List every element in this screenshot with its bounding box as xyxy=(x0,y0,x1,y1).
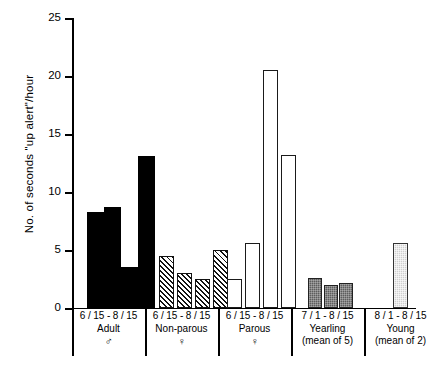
group-range-adult: 6 / 15 - 8 / 15 xyxy=(72,310,145,323)
bar-non-parous-3 xyxy=(195,279,210,308)
bar-non-parous-1 xyxy=(159,256,174,308)
bar-adult-4 xyxy=(138,156,155,308)
group-name-parous: Parous xyxy=(218,323,291,336)
group-symbol-female-parous: ♀ xyxy=(218,335,291,348)
y-tick-5 xyxy=(65,250,72,252)
y-tick-20 xyxy=(65,76,72,78)
group-name-young: Young xyxy=(364,323,431,336)
y-tick-10 xyxy=(65,192,72,194)
plot-area xyxy=(73,18,416,308)
bar-parous-1 xyxy=(227,279,242,308)
y-tick-label-25: 25 xyxy=(31,11,61,23)
bar-adult-3 xyxy=(121,267,138,308)
group-range-parous: 6 / 15 - 8 / 15 xyxy=(218,310,291,323)
y-tick-label-10: 10 xyxy=(31,185,61,197)
y-tick-15 xyxy=(65,134,72,136)
group-note-young: (mean of 2) xyxy=(364,335,431,348)
group-range-nonparous: 6 / 15 - 8 / 15 xyxy=(145,310,218,323)
bar-adult-1 xyxy=(87,212,104,308)
group-label-parous: 6 / 15 - 8 / 15 Parous ♀ xyxy=(218,310,291,348)
group-range-young: 8 / 1 - 8 / 15 xyxy=(364,310,431,323)
bar-adult-2 xyxy=(104,207,121,308)
bar-non-parous-2 xyxy=(177,273,192,308)
y-tick-0 xyxy=(65,308,72,310)
bar-young-1 xyxy=(393,243,408,308)
y-axis-label: No. of seconds "up alert"/hour xyxy=(23,29,35,279)
group-symbol-female-nonparous: ♀ xyxy=(145,335,218,348)
group-range-yearling: 7 / 1 - 8 / 15 xyxy=(291,310,364,323)
group-label-young: 8 / 1 - 8 / 15 Young (mean of 2) xyxy=(364,310,431,348)
group-name-nonparous: Non-parous xyxy=(145,323,218,336)
group-name-adult: Adult xyxy=(72,323,145,336)
bar-parous-4 xyxy=(281,155,296,308)
group-label-yearling: 7 / 1 - 8 / 15 Yearling (mean of 5) xyxy=(291,310,364,348)
bar-non-parous-4 xyxy=(213,250,228,308)
group-note-yearling: (mean of 5) xyxy=(291,335,364,348)
bar-yearling-3 xyxy=(339,283,353,309)
y-tick-label-15: 15 xyxy=(31,127,61,139)
group-name-yearling: Yearling xyxy=(291,323,364,336)
bar-yearling-2 xyxy=(324,285,338,308)
y-tick-label-0: 0 xyxy=(31,301,61,313)
bar-parous-3 xyxy=(263,70,278,308)
group-label-adult: 6 / 15 - 8 / 15 Adult ♂ xyxy=(72,310,145,348)
bar-yearling-1 xyxy=(308,278,322,308)
y-tick-25 xyxy=(65,18,72,20)
y-tick-label-20: 20 xyxy=(31,69,61,81)
group-label-nonparous: 6 / 15 - 8 / 15 Non-parous ♀ xyxy=(145,310,218,348)
bar-parous-2 xyxy=(245,243,260,308)
group-symbol-male-adult: ♂ xyxy=(72,335,145,348)
y-tick-label-5: 5 xyxy=(31,243,61,255)
